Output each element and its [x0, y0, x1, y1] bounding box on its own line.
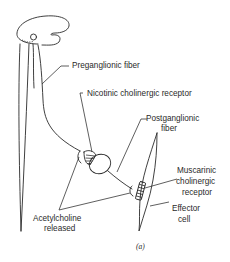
label-muscarinic-line1: Muscarinic: [177, 166, 216, 175]
preganglionic-cell-body: [17, 16, 69, 45]
postganglionic-fiber: [108, 171, 132, 189]
figure-caption: (a): [136, 242, 145, 251]
label-effector-line2: cell: [178, 215, 190, 224]
nicotinic-receptor-icon: [84, 151, 96, 165]
postganglionic-terminal: [130, 186, 133, 196]
preganglionic-terminal: [78, 151, 81, 163]
label-acetylcholine-line2: released: [44, 224, 76, 233]
label-muscarinic-line2: cholinergic: [176, 177, 215, 186]
label-postganglionic-line2: fiber: [161, 124, 177, 133]
label-postganglionic-line1: Postganglionic: [146, 114, 199, 123]
label-muscarinic-line3: receptor: [182, 188, 212, 197]
cholinergic-transmission-diagram: Preganglionic fiber Nicotinic cholinergi…: [0, 0, 230, 262]
label-nicotinic-receptor: Nicotinic cholinergic receptor: [87, 89, 192, 98]
label-preganglionic-fiber: Preganglionic fiber: [72, 61, 140, 70]
nucleus: [31, 34, 37, 40]
long-axon: [19, 44, 29, 231]
label-effector-line1: Effector: [172, 204, 200, 213]
label-acetylcholine-line1: Acetylcholine: [33, 214, 82, 223]
